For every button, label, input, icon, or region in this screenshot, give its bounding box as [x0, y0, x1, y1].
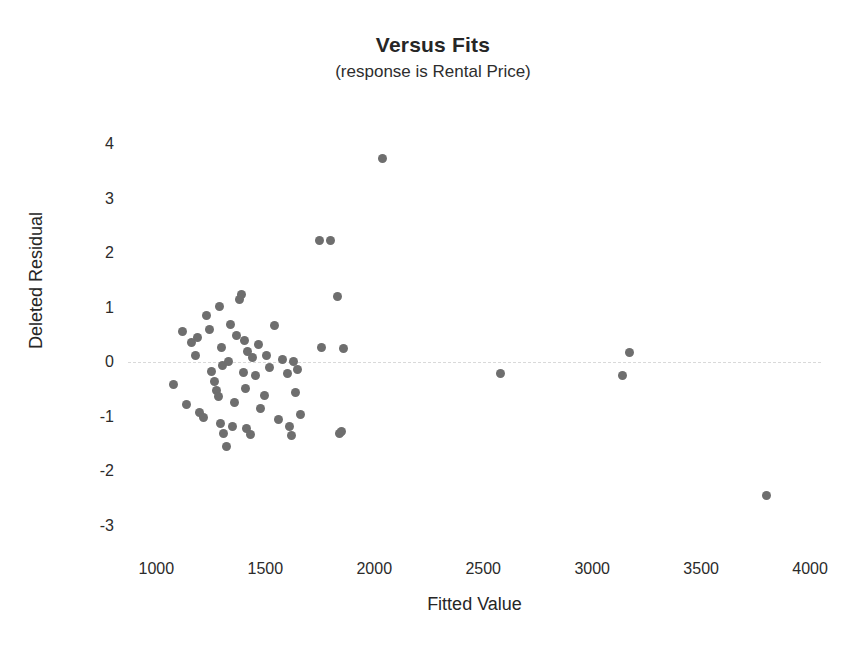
- data-point: [283, 369, 292, 378]
- x-tick-label: 1500: [225, 560, 305, 578]
- data-point: [248, 353, 257, 362]
- data-point: [214, 392, 223, 401]
- data-point: [215, 302, 224, 311]
- data-point: [241, 384, 250, 393]
- data-point: [339, 344, 348, 353]
- data-point: [224, 357, 233, 366]
- x-tick-label: 3500: [661, 560, 741, 578]
- data-point: [178, 327, 187, 336]
- data-point: [239, 368, 248, 377]
- data-point: [289, 357, 298, 366]
- y-tick-label: -3: [68, 518, 114, 534]
- scatter-chart: Versus Fits (response is Rental Price) 4…: [0, 0, 866, 648]
- y-tick-label: 1: [68, 300, 114, 316]
- data-point: [762, 491, 771, 500]
- x-tick-label: 1000: [116, 560, 196, 578]
- y-axis-label: Deleted Residual: [26, 181, 47, 381]
- data-point: [625, 348, 634, 357]
- y-tick-label: 0: [68, 354, 114, 370]
- data-point: [169, 380, 178, 389]
- data-point: [285, 422, 294, 431]
- plot-area: [128, 125, 821, 545]
- chart-title: Versus Fits: [0, 33, 866, 57]
- y-tick-label: 4: [68, 136, 114, 152]
- x-tick-label: 2500: [443, 560, 523, 578]
- data-point: [256, 404, 265, 413]
- data-point: [315, 236, 324, 245]
- data-point: [496, 369, 505, 378]
- data-point: [191, 351, 200, 360]
- data-point: [287, 431, 296, 440]
- data-point: [260, 391, 269, 400]
- y-tick-label: 2: [68, 245, 114, 261]
- data-point: [193, 333, 202, 342]
- data-point: [262, 351, 271, 360]
- x-tick-label: 4000: [770, 560, 850, 578]
- data-point: [291, 388, 300, 397]
- data-point: [378, 154, 387, 163]
- data-point: [216, 419, 225, 428]
- data-point: [240, 336, 249, 345]
- data-point: [207, 367, 216, 376]
- data-point: [337, 427, 346, 436]
- data-point: [317, 343, 326, 352]
- data-point: [333, 292, 342, 301]
- data-point: [270, 321, 279, 330]
- data-point: [230, 398, 239, 407]
- data-point: [254, 340, 263, 349]
- data-point: [326, 236, 335, 245]
- data-point: [237, 290, 246, 299]
- data-point: [199, 413, 208, 422]
- y-tick-label: -2: [68, 463, 114, 479]
- y-tick-label: 3: [68, 191, 114, 207]
- data-point: [217, 343, 226, 352]
- data-point: [265, 363, 274, 372]
- data-point: [251, 371, 260, 380]
- data-point: [205, 325, 214, 334]
- data-point: [226, 320, 235, 329]
- data-point: [219, 429, 228, 438]
- data-point: [274, 415, 283, 424]
- chart-subtitle: (response is Rental Price): [0, 62, 866, 82]
- x-tick-label: 3000: [552, 560, 632, 578]
- x-axis-ticks: 1000150020002500300035004000: [128, 560, 821, 582]
- data-point: [293, 365, 302, 374]
- data-point: [222, 442, 231, 451]
- data-point: [210, 377, 219, 386]
- data-point: [228, 422, 237, 431]
- data-point: [618, 371, 627, 380]
- data-point: [296, 410, 305, 419]
- data-point: [202, 311, 211, 320]
- data-point: [182, 400, 191, 409]
- y-tick-label: -1: [68, 409, 114, 425]
- x-axis-label: Fitted Value: [128, 594, 821, 615]
- y-axis-ticks: 43210-1-2-3: [62, 125, 114, 545]
- x-tick-label: 2000: [334, 560, 414, 578]
- data-point: [246, 430, 255, 439]
